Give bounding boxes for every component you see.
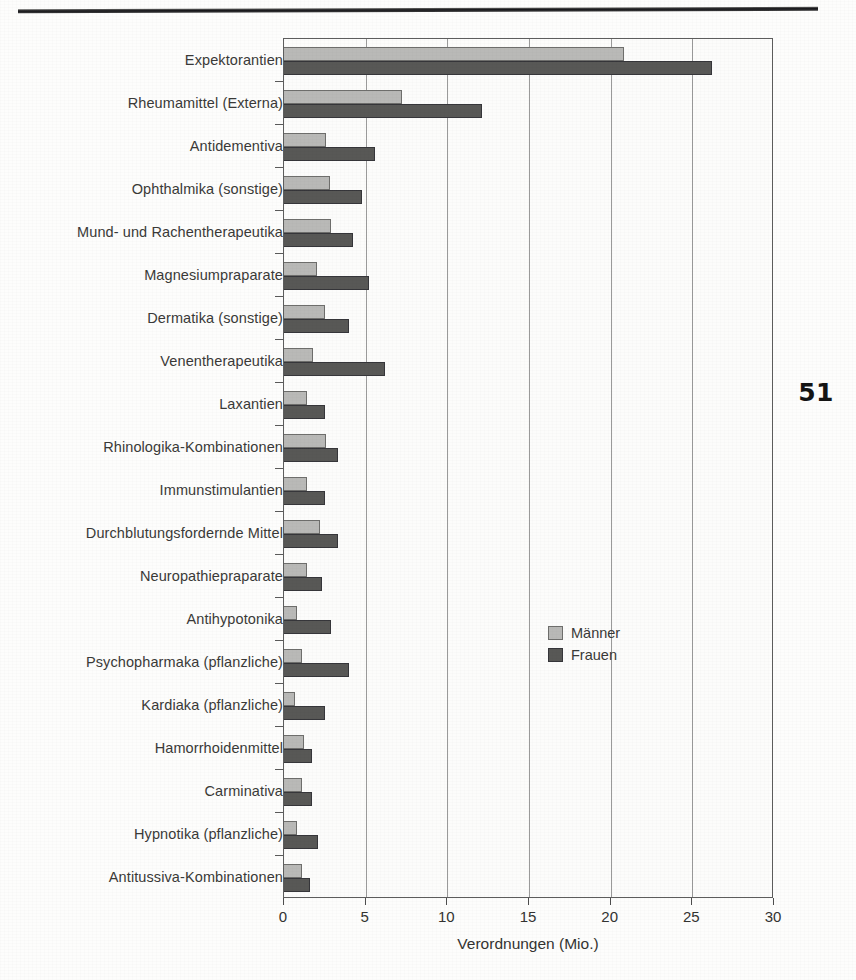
y-axis-tick <box>275 554 283 555</box>
bar-group <box>284 39 772 82</box>
y-axis-tick <box>275 855 283 856</box>
bar-frauen <box>284 792 312 806</box>
bar-group <box>284 297 772 340</box>
y-axis-tick <box>275 124 283 125</box>
y-axis-tick <box>275 81 283 82</box>
x-axis-tick <box>773 898 774 905</box>
bar-frauen <box>284 663 349 677</box>
bar-group <box>284 512 772 555</box>
category-label: Kardiaka (pflanzliche) <box>7 697 283 713</box>
bar-group <box>284 426 772 469</box>
bar-frauen <box>284 147 375 161</box>
bar-frauen <box>284 276 369 290</box>
bar-manner <box>284 90 402 104</box>
y-axis-tick <box>275 296 283 297</box>
bar-manner <box>284 649 302 663</box>
x-axis-tick-label: 20 <box>601 908 618 925</box>
bar-frauen <box>284 319 349 333</box>
bar-manner <box>284 47 624 61</box>
bar-manner <box>284 133 326 147</box>
category-axis-labels: ExpektorantienRheumamittel (Externa)Anti… <box>0 38 283 898</box>
bar-frauen <box>284 577 322 591</box>
bar-manner <box>284 176 330 190</box>
page-number: 51 <box>798 378 834 407</box>
bar-frauen <box>284 405 325 419</box>
bar-frauen <box>284 620 331 634</box>
bar-group <box>284 727 772 770</box>
x-axis-title: Verordnungen (Mio.) <box>283 935 773 953</box>
bar-group <box>284 598 772 641</box>
x-axis-tick <box>283 898 284 905</box>
plot-area <box>283 38 773 898</box>
legend-item-frauen: Frauen <box>548 647 620 663</box>
bar-frauen <box>284 749 312 763</box>
y-axis-tick <box>275 210 283 211</box>
bar-group <box>284 770 772 813</box>
bar-frauen <box>284 448 338 462</box>
bar-manner <box>284 434 326 448</box>
x-axis-tick <box>528 898 529 905</box>
category-label: Expektorantien <box>7 52 283 68</box>
bar-frauen <box>284 61 712 75</box>
bar-manner <box>284 391 307 405</box>
bar-manner <box>284 692 295 706</box>
category-label: Rheumamittel (Externa) <box>7 95 283 111</box>
y-axis-tick <box>275 468 283 469</box>
category-label: Carminativa <box>7 783 283 799</box>
bar-frauen <box>284 534 338 548</box>
bar-group <box>284 641 772 684</box>
y-axis-tick <box>275 253 283 254</box>
bar-manner <box>284 305 325 319</box>
bar-frauen <box>284 104 482 118</box>
x-axis-tick <box>610 898 611 905</box>
y-axis-tick <box>275 382 283 383</box>
category-label: Ophthalmika (sonstige) <box>7 181 283 197</box>
y-axis-tick <box>275 640 283 641</box>
bar-group <box>284 340 772 383</box>
y-axis-tick <box>275 769 283 770</box>
bar-manner <box>284 348 313 362</box>
bar-group <box>284 856 772 899</box>
legend-label-frauen: Frauen <box>571 647 617 663</box>
bar-group <box>284 82 772 125</box>
bar-manner <box>284 778 302 792</box>
chart-legend: Männer Frauen <box>548 625 620 669</box>
x-axis-tick-label: 0 <box>279 908 287 925</box>
x-axis-tick-label: 30 <box>765 908 782 925</box>
bar-manner <box>284 262 317 276</box>
bar-chart: ExpektorantienRheumamittel (Externa)Anti… <box>0 0 800 960</box>
category-label: Dermatika (sonstige) <box>7 310 283 326</box>
legend-swatch-manner <box>548 626 563 640</box>
category-label: Magnesiumpraparate <box>7 267 283 283</box>
bar-group <box>284 254 772 297</box>
x-axis-tick-label: 15 <box>520 908 537 925</box>
category-label: Antitussiva-Kombinationen <box>7 869 283 885</box>
bar-group <box>284 125 772 168</box>
x-axis-tick <box>365 898 366 905</box>
category-label: Antihypotonika <box>7 611 283 627</box>
y-axis-tick <box>275 339 283 340</box>
bar-group <box>284 469 772 512</box>
x-axis-tick <box>691 898 692 905</box>
bar-group <box>284 684 772 727</box>
x-axis-tick-label: 5 <box>360 908 368 925</box>
legend-swatch-frauen <box>548 648 563 662</box>
y-axis-tick <box>275 425 283 426</box>
category-label: Immunstimulantien <box>7 482 283 498</box>
bar-frauen <box>284 706 325 720</box>
bar-manner <box>284 477 307 491</box>
y-axis-tick <box>275 167 283 168</box>
bar-group <box>284 813 772 856</box>
category-label: Mund- und Rachentherapeutika <box>7 224 283 240</box>
bar-frauen <box>284 491 325 505</box>
bar-frauen <box>284 233 353 247</box>
scanned-page: 51 ExpektorantienRheumamittel (Externa)A… <box>0 0 856 980</box>
legend-item-manner: Männer <box>548 625 620 641</box>
x-axis-tick-label: 25 <box>683 908 700 925</box>
category-label: Laxantien <box>7 396 283 412</box>
bar-manner <box>284 219 331 233</box>
bar-frauen <box>284 835 318 849</box>
y-axis-tick <box>275 812 283 813</box>
category-label: Rhinologika-Kombinationen <box>7 439 283 455</box>
bar-group <box>284 383 772 426</box>
